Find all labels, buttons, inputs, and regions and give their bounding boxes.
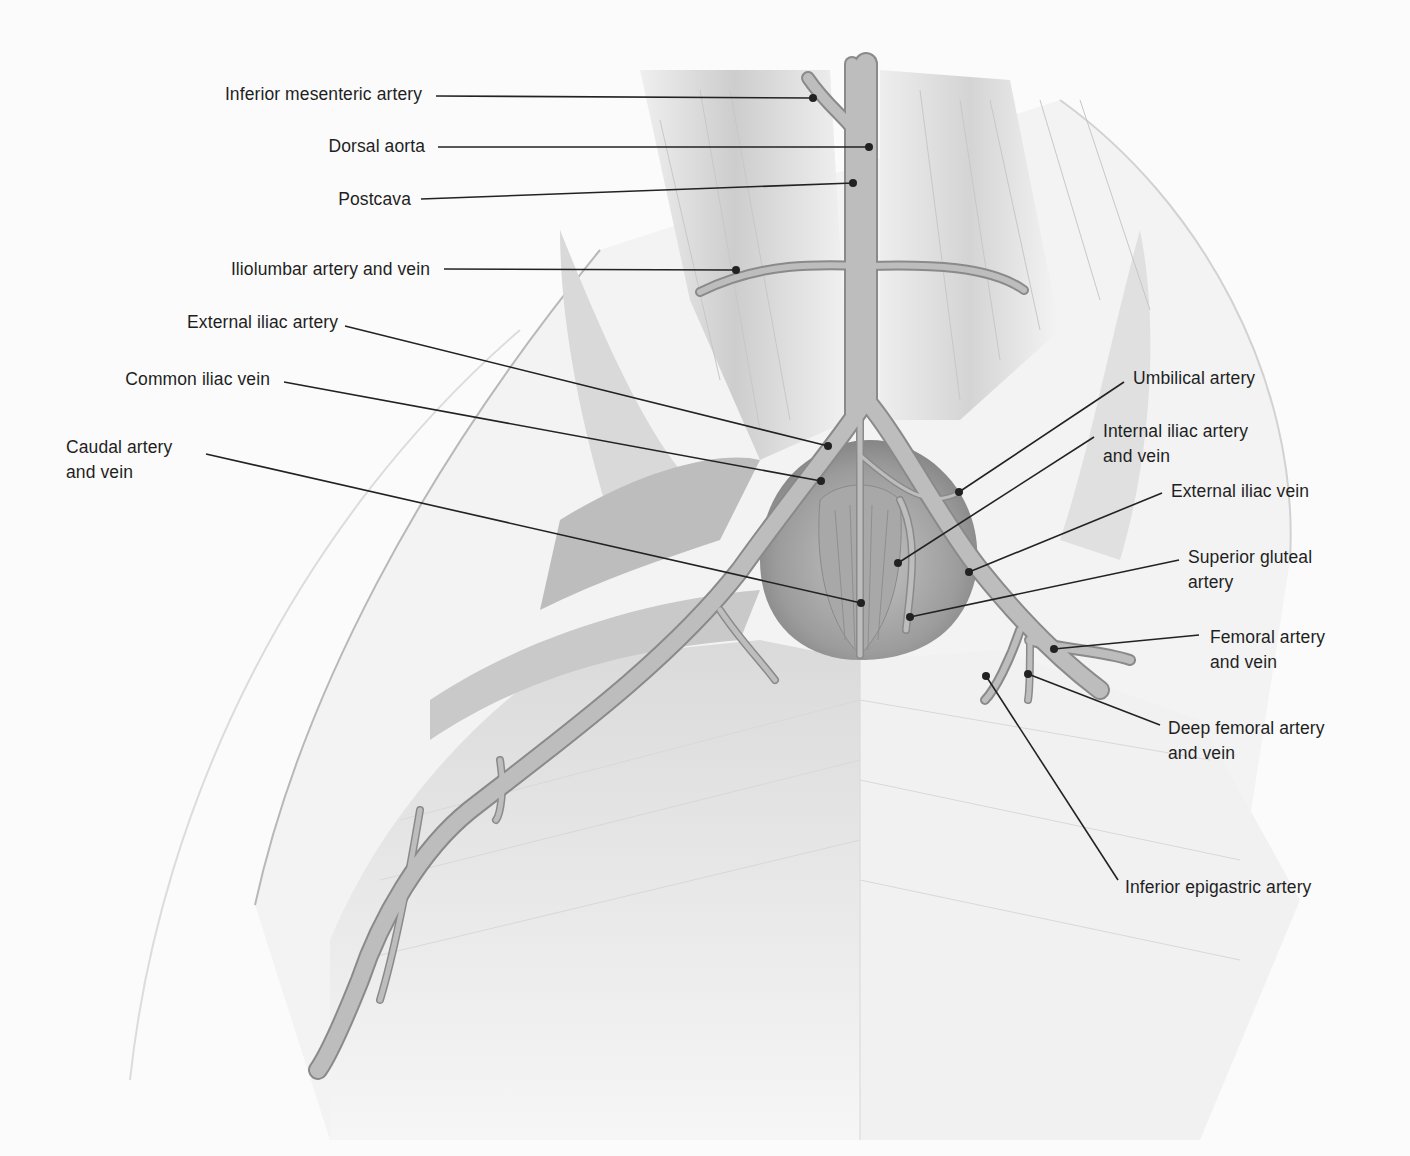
label-iliolumbar-artery-and-vein: Iliolumbar artery and vein <box>0 257 430 282</box>
label-internal-iliac-artery-and-vein: Internal iliac artery and vein <box>1103 419 1303 469</box>
label-inferior-epigastric-artery: Inferior epigastric artery <box>1125 875 1385 900</box>
pointer-dot-inferior-epigastric-artery <box>982 672 990 680</box>
label-common-iliac-vein: Common iliac vein <box>0 367 270 392</box>
label-external-iliac-vein: External iliac vein <box>1171 479 1371 504</box>
pointer-dot-iliolumbar-artery-and-vein <box>732 266 740 274</box>
pointer-dot-superior-gluteal-artery <box>906 613 914 621</box>
pointer-dot-external-iliac-artery <box>824 442 832 450</box>
label-postcava: Postcava <box>0 187 411 212</box>
label-superior-gluteal-artery: Superior gluteal artery <box>1188 545 1388 595</box>
leader-line-iliolumbar-artery-and-vein <box>444 269 736 270</box>
label-inferior-mesenteric-artery: Inferior mesenteric artery <box>0 82 422 107</box>
label-caudal-artery-and-vein: Caudal artery and vein <box>66 435 206 485</box>
pointer-dot-inferior-mesenteric-artery <box>809 94 817 102</box>
pointer-dot-umbilical-artery <box>955 488 963 496</box>
pointer-dot-caudal-artery-and-vein <box>857 599 865 607</box>
label-external-iliac-artery: External iliac artery <box>0 310 338 335</box>
pointer-dot-dorsal-aorta <box>865 143 873 151</box>
pointer-dot-external-iliac-vein <box>965 568 973 576</box>
pointer-dot-deep-femoral-artery-and-vein <box>1024 670 1032 678</box>
pointer-dot-femoral-artery-and-vein <box>1050 645 1058 653</box>
pointer-dot-postcava <box>849 179 857 187</box>
label-umbilical-artery: Umbilical artery <box>1133 366 1333 391</box>
pointer-dot-internal-iliac-artery-and-vein <box>894 559 902 567</box>
label-femoral-artery-and-vein: Femoral artery and vein <box>1210 625 1410 675</box>
label-deep-femoral-artery-and-vein: Deep femoral artery and vein <box>1168 716 1388 766</box>
label-dorsal-aorta: Dorsal aorta <box>0 134 425 159</box>
pointer-dot-common-iliac-vein <box>817 477 825 485</box>
